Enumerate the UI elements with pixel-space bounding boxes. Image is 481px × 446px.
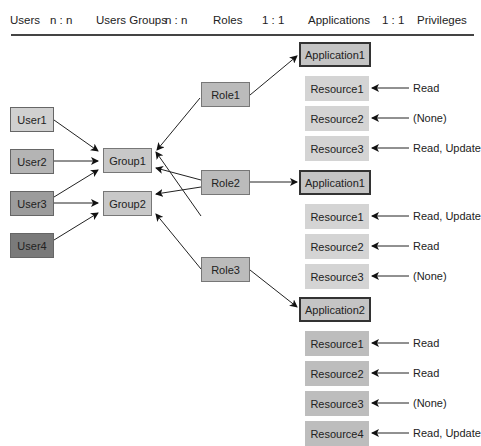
- resource-label: Resource4: [310, 428, 363, 440]
- column-header-row: Users n : n Users Groups n : n Roles 1 :…: [10, 14, 475, 32]
- resource-label: Resource2: [310, 113, 363, 125]
- user-label: User1: [17, 114, 46, 126]
- user-label: User4: [17, 240, 46, 252]
- resource-label: Resource3: [310, 398, 363, 410]
- resource-node[interactable]: Resource4: [305, 421, 369, 446]
- user-node-1[interactable]: User1: [10, 107, 54, 132]
- privilege-label: (None): [413, 270, 447, 282]
- header-users-groups-cardinality: n : n: [50, 14, 72, 26]
- header-groups-roles-cardinality: n : n: [165, 14, 187, 26]
- header-roles-apps-cardinality: 1 : 1: [262, 14, 284, 26]
- application-label: Application1: [305, 49, 365, 61]
- user-node-2[interactable]: User2: [10, 149, 54, 174]
- resource-label: Resource1: [310, 211, 363, 223]
- header-apps-privileges-cardinality: 1 : 1: [382, 14, 404, 26]
- resource-label: Resource1: [310, 83, 363, 95]
- group-node-1[interactable]: Group1: [103, 148, 152, 173]
- privilege-label: Read, Update: [413, 427, 481, 439]
- privilege-label: Read: [413, 337, 439, 349]
- header-divider: [11, 34, 474, 36]
- resource-node[interactable]: Resource2: [305, 361, 369, 386]
- user-node-3[interactable]: User3: [10, 191, 54, 216]
- resource-node[interactable]: Resource3: [305, 391, 369, 416]
- group-node-2[interactable]: Group2: [103, 191, 152, 216]
- resource-node[interactable]: Resource1: [305, 331, 369, 356]
- resource-node[interactable]: Resource2: [305, 106, 369, 131]
- privilege-label: Read: [413, 367, 439, 379]
- role-label: Role2: [211, 177, 240, 189]
- resource-node[interactable]: Resource3: [305, 136, 369, 161]
- role-node-1[interactable]: Role1: [201, 82, 250, 107]
- privilege-label: Read, Update: [413, 142, 481, 154]
- resource-label: Resource3: [310, 143, 363, 155]
- privilege-label: Read, Update: [413, 210, 481, 222]
- role-label: Role1: [211, 89, 240, 101]
- resource-label: Resource2: [310, 368, 363, 380]
- header-roles: Roles: [213, 14, 242, 26]
- application-label: Application2: [305, 304, 365, 316]
- application-node-1[interactable]: Application1: [299, 42, 371, 67]
- resource-node[interactable]: Resource1: [305, 76, 369, 101]
- header-applications: Applications: [308, 14, 370, 26]
- resource-node[interactable]: Resource1: [305, 204, 369, 229]
- privilege-label: (None): [413, 112, 447, 124]
- application-node-2[interactable]: Application1: [299, 170, 371, 195]
- role-node-3[interactable]: Role3: [201, 257, 250, 282]
- resource-label: Resource2: [310, 241, 363, 253]
- header-users-groups: Users Groups: [96, 14, 167, 26]
- group-label: Group1: [109, 155, 146, 167]
- header-privileges: Privileges: [417, 14, 467, 26]
- application-node-3[interactable]: Application2: [299, 297, 371, 322]
- resource-label: Resource1: [310, 338, 363, 350]
- application-label: Application1: [305, 177, 365, 189]
- role-node-2[interactable]: Role2: [201, 170, 250, 195]
- user-label: User3: [17, 198, 46, 210]
- resource-node[interactable]: Resource2: [305, 234, 369, 259]
- privilege-label: Read: [413, 82, 439, 94]
- role-label: Role3: [211, 264, 240, 276]
- resource-node[interactable]: Resource3: [305, 264, 369, 289]
- user-label: User2: [17, 156, 46, 168]
- privilege-label: (None): [413, 397, 447, 409]
- header-users: Users: [10, 14, 40, 26]
- resource-label: Resource3: [310, 271, 363, 283]
- privilege-label: Read: [413, 240, 439, 252]
- group-label: Group2: [109, 198, 146, 210]
- user-node-4[interactable]: User4: [10, 233, 54, 258]
